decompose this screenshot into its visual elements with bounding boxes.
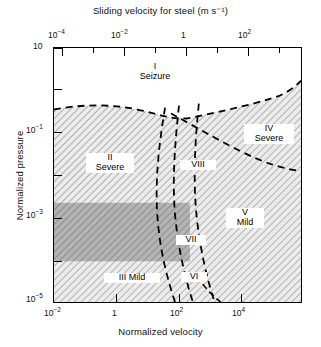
wear-mechanism-map: Sliding velocity for steel (m s⁻¹) Norma…	[0, 0, 321, 347]
region-label-VII: VII	[176, 235, 206, 245]
region-label-III: III Mild	[104, 273, 160, 283]
y-tick-label-1: 10	[33, 41, 42, 51]
region-label-VIII: VIII	[180, 160, 216, 170]
top-tick-label-4: 102	[238, 30, 251, 40]
x-axis-title: Normalized velocity	[0, 326, 321, 337]
y-tick-label-4: 10−5	[26, 294, 43, 304]
x-tick-label-1: 10−2	[44, 308, 61, 318]
top-tick-label-3: 1	[181, 30, 186, 40]
x-tick-label-3: 102	[170, 308, 183, 318]
top-axis-title: Sliding velocity for steel (m s⁻¹)	[0, 5, 321, 16]
region-label-V: V Mild	[226, 208, 264, 228]
y-axis-title: Normalized pressure	[14, 106, 25, 246]
plot-area: I Seizure II Severe III Mild IV Severe V…	[53, 47, 302, 303]
hatched-field	[54, 81, 301, 302]
x-tick-label-4: 104	[232, 308, 245, 318]
x-tick-label-2: 1	[112, 308, 117, 318]
y-tick-label-3: 10−3	[26, 210, 43, 220]
region-label-I: I Seizure	[130, 62, 180, 82]
top-tick-label-2: 10−2	[111, 30, 128, 40]
top-tick-label-1: 10−4	[48, 30, 65, 40]
region-label-II: II Severe	[86, 153, 134, 173]
y-tick-label-2: 10−1	[26, 125, 43, 135]
dark-shaded-band	[54, 203, 190, 262]
map-regions	[54, 48, 301, 302]
region-label-IV: IV Severe	[244, 124, 294, 144]
region-label-VI: VI	[181, 272, 207, 282]
